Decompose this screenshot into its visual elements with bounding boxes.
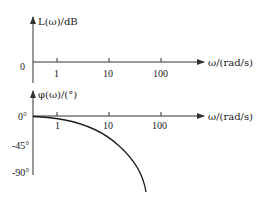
x-tick-label-100: 100 bbox=[152, 120, 167, 131]
magnitude-x-label: ω/(rad/s) bbox=[208, 57, 253, 68]
phase-tick-45: -45° bbox=[12, 140, 29, 151]
magnitude-zero-label: 0 bbox=[20, 61, 25, 72]
phase-x-label: ω/(rad/s) bbox=[208, 111, 253, 122]
magnitude-y-label: L(ω)/dB bbox=[38, 16, 78, 27]
phase-tick-90: -90° bbox=[12, 167, 29, 178]
phase-y-label: φ(ω)/(°) bbox=[38, 89, 77, 100]
phase-plot: φ(ω)/(°) 0° -45° -90° 1 10 100 ω/(rad/s) bbox=[12, 89, 253, 192]
magnitude-plot: L(ω)/dB 0 1 10 100 ω/(rad/s) bbox=[20, 16, 253, 83]
bode-plot: L(ω)/dB 0 1 10 100 ω/(rad/s) φ(ω)/(°) 0°… bbox=[0, 0, 265, 209]
x-tick-label-10: 10 bbox=[103, 68, 113, 79]
x-tick-label-1: 1 bbox=[54, 68, 59, 79]
x-tick-label-10: 10 bbox=[103, 120, 113, 131]
x-tick-label-1: 1 bbox=[55, 120, 60, 131]
phase-tick-0: 0° bbox=[18, 111, 27, 122]
x-tick-label-100: 100 bbox=[153, 68, 168, 79]
phase-curve bbox=[33, 117, 146, 193]
